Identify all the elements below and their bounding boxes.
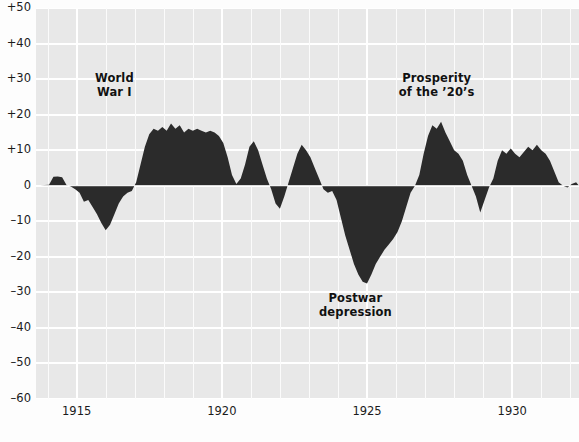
area-series	[36, 8, 579, 399]
annotation-postwar-depression: Postwar depression	[319, 291, 392, 319]
x-axis-tick-label: 1930	[498, 406, 527, 418]
plot-area	[36, 8, 579, 399]
series-path-svg	[36, 8, 579, 399]
y-axis-tick-label: –10	[0, 215, 31, 227]
y-axis-tick-label: –20	[0, 251, 31, 263]
y-axis-tick-label: –40	[0, 322, 31, 334]
x-axis-tick-label: 1915	[62, 406, 91, 418]
chart-figure: +50+40+30+20+100–10–20–30–40–50–60191519…	[0, 0, 579, 442]
y-axis-tick-label: +50	[0, 2, 31, 14]
y-axis-tick-label: –30	[0, 286, 31, 298]
y-axis-tick-label: –50	[0, 357, 31, 369]
x-axis-tick-label: 1925	[352, 406, 381, 418]
y-axis-tick-label: +30	[0, 73, 31, 85]
y-axis-tick-label: +40	[0, 38, 31, 50]
x-axis-tick-label: 1920	[207, 406, 236, 418]
series-area-fill	[36, 122, 579, 284]
y-axis-tick-label: +20	[0, 109, 31, 121]
y-axis-tick-label: –60	[0, 393, 31, 405]
annotation-world-war-i: World War I	[95, 71, 134, 99]
y-axis-tick-label: +10	[0, 144, 31, 156]
annotation-prosperity-twenties: Prosperity of the ’20’s	[399, 71, 475, 99]
y-axis-tick-label: 0	[0, 180, 31, 192]
